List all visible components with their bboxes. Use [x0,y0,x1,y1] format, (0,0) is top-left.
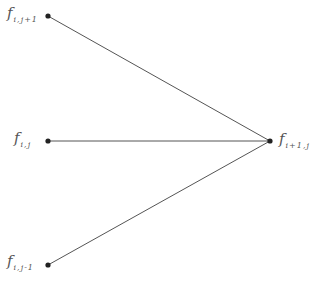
label-main: f [7,252,13,270]
node-dot-right [267,138,272,143]
node-dot-mid [45,138,50,143]
label-subscript: i+1,j [286,141,310,150]
label-f-i-jplus1: fi,j+1 [7,6,38,24]
node-dot-top [45,13,50,18]
edge-bot-to-right [48,141,270,265]
label-main: f [279,130,285,148]
label-main: f [14,129,20,147]
edge-top-to-right [48,16,270,141]
label-subscript: i,j+1 [14,15,38,24]
label-subscript: i,j-1 [14,263,34,272]
label-f-i-j: fi,j [14,131,31,149]
node-dot-bot [45,262,50,267]
label-main: f [7,4,13,22]
label-f-i-jminus1: fi,j-1 [7,254,34,272]
stencil-diagram [0,0,310,281]
label-f-iplus1-j: fi+1,j [279,132,310,150]
label-subscript: i,j [21,140,32,149]
